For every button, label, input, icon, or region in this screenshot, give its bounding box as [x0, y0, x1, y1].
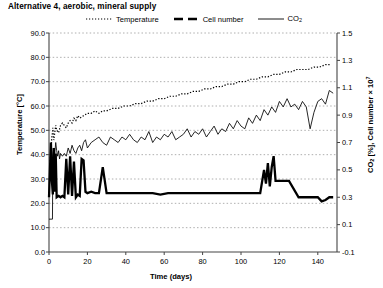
x-axis-tick: 80	[188, 257, 218, 266]
y-axis-left-tick: 60.0	[5, 102, 45, 111]
x-axis-tick: 140	[303, 257, 333, 266]
gridlines	[49, 33, 337, 228]
y-axis-left-label: Temperature [°C]	[15, 70, 24, 180]
plot-area	[0, 0, 383, 288]
axis-lines	[49, 33, 337, 252]
y-axis-left-tick: 90.0	[5, 29, 45, 38]
y-axis-right-tick: 1.5	[342, 29, 372, 38]
x-axis-label: Time (days)	[150, 272, 192, 281]
y-axis-right-tick: 0.1	[342, 220, 372, 229]
y-axis-left-tick: 80.0	[5, 53, 45, 62]
data-series	[49, 65, 333, 220]
x-axis-tick: 100	[226, 257, 256, 266]
y-axis-left-tick: 50.0	[5, 126, 45, 135]
x-axis-tick: 20	[72, 257, 102, 266]
y-axis-left-tick: 0.0	[5, 248, 45, 257]
series-line-temperature	[50, 65, 331, 165]
y-axis-left-tick: 10.0	[5, 223, 45, 232]
y-axis-left-tick: 40.0	[5, 150, 45, 159]
y-axis-right-label: CO2 [%], Cell number × 107	[365, 65, 375, 185]
y-axis-left-tick: 30.0	[5, 175, 45, 184]
series-line-cell-number	[49, 143, 333, 202]
x-axis-tick: 120	[264, 257, 294, 266]
x-axis-tick: 0	[34, 257, 64, 266]
y-axis-left-tick: 20.0	[5, 199, 45, 208]
x-axis-tick: 60	[149, 257, 179, 266]
y-axis-right-tick: -0.1	[342, 248, 372, 257]
y-axis-right-tick: 1.3	[342, 56, 372, 65]
y-axis-left-tick: 70.0	[5, 77, 45, 86]
x-axis-tick: 40	[111, 257, 141, 266]
y-axis-right-tick: 0.3	[342, 193, 372, 202]
chart-figure: Alternative 4, aerobic, mineral supply T…	[0, 0, 383, 288]
